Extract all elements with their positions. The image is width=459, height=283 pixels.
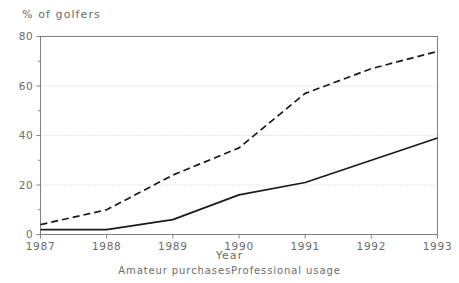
legend: Amateur purchasesProfessional usage <box>0 265 459 276</box>
x-axis-label: Year <box>0 249 459 262</box>
y-tick-label-60: 60 <box>19 80 34 92</box>
legend-item-professional-usage: Professional usage <box>231 265 341 276</box>
y-axis-major-ticks <box>37 37 41 235</box>
legend-item-amateur-purchases: Amateur purchases <box>118 265 231 276</box>
chart-figure: % of golfers 020406080 19871988198919901… <box>0 0 459 283</box>
y-tick-label-20: 20 <box>19 179 34 191</box>
plot-area: 020406080 1987198819891990199119921993 <box>0 0 459 283</box>
y-tick-label-80: 80 <box>19 30 34 42</box>
series-line-professional-usage <box>41 51 438 224</box>
gridlines <box>41 86 438 185</box>
y-axis-tick-labels: 020406080 <box>19 30 34 240</box>
series-line-amateur-purchases <box>41 138 438 230</box>
y-tick-label-0: 0 <box>26 228 33 240</box>
data-series-group <box>41 51 438 229</box>
x-axis-ticks <box>41 235 438 239</box>
y-axis-label: % of golfers <box>22 8 101 21</box>
y-tick-label-40: 40 <box>19 129 34 141</box>
